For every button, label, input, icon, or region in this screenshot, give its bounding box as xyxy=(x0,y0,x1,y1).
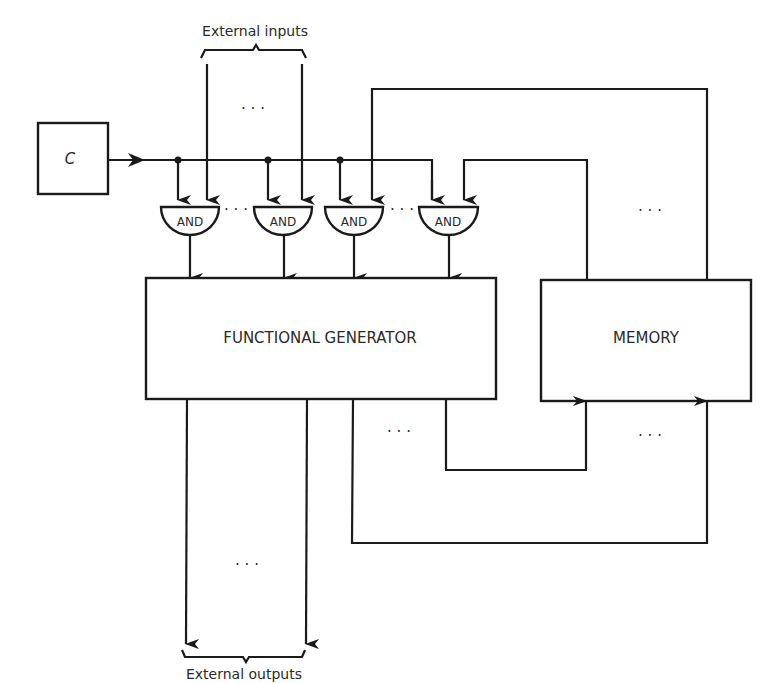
functional-generator-label: FUNCTIONAL GENERATOR xyxy=(223,329,416,347)
and-gate-label: AND xyxy=(270,215,296,229)
clock-label: C xyxy=(65,150,76,168)
and-gate-4: AND xyxy=(419,207,478,235)
and-gate-2: AND xyxy=(254,207,312,235)
external-outputs-brace xyxy=(182,650,305,662)
outputs-ellipsis: · · · xyxy=(235,556,259,574)
external-outputs-label: External outputs xyxy=(186,666,302,682)
and-gate-1: AND xyxy=(161,207,219,235)
feedback-ellipsis: · · · xyxy=(638,202,662,220)
memory-feedback-far xyxy=(372,89,707,280)
sequential-machine-diagram: External inputs · · · C · · · AND · · · … xyxy=(0,0,781,683)
memory-input-ellipsis: · · · xyxy=(638,427,662,445)
external-inputs-label: External inputs xyxy=(202,23,308,39)
and-gate-label: AND xyxy=(341,215,367,229)
gates-ellipsis: · · · xyxy=(224,201,248,219)
clock-line xyxy=(108,160,432,200)
fg-state-ellipsis: · · · xyxy=(387,423,411,441)
memory-feedback-near xyxy=(464,160,587,280)
fg-to-memory-near xyxy=(446,399,586,470)
and-gate-3: AND xyxy=(325,207,383,235)
and-gate-label: AND xyxy=(435,215,461,229)
inputs-ellipsis: · · · xyxy=(241,100,265,118)
and-gate-label: AND xyxy=(177,215,203,229)
external-output-1 xyxy=(186,399,187,644)
memory-label: MEMORY xyxy=(613,329,680,347)
external-inputs-brace xyxy=(201,45,306,58)
gates-ellipsis: · · · xyxy=(390,201,414,219)
external-output-n xyxy=(306,399,307,644)
